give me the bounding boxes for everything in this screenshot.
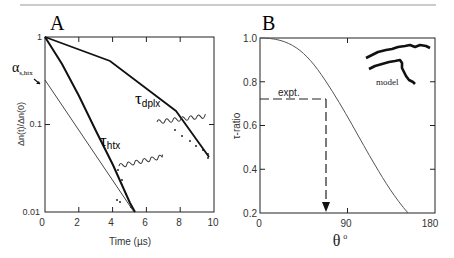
dplx-decay-line (45, 37, 209, 157)
svg-text:0.6: 0.6 (243, 120, 257, 131)
tau-htx-label: τhtx (100, 131, 120, 151)
figure: A 0 2 4 6 8 10 1 0.1 0.01 Time (µs) Δn(t… (0, 0, 454, 258)
triplex-helix-icon (119, 155, 164, 168)
svg-text:10: 10 (207, 217, 219, 228)
panel-b-frame (260, 38, 435, 213)
svg-text:0: 0 (256, 218, 262, 229)
model-strand-upper-icon (366, 45, 430, 58)
svg-text:180: 180 (422, 218, 439, 229)
panel-b-y-axis-title: τ-ratio (231, 112, 242, 139)
alpha-label: αs,htx (12, 60, 33, 77)
panel-a-frame (45, 37, 214, 212)
panel-b: B 0 90 180 1.0 0.8 0.6 0.4 0.2 θo τ-rati… (231, 12, 439, 249)
panel-a-label: A (50, 12, 65, 34)
panel-a-x-ticks (45, 37, 214, 212)
svg-text:0.1: 0.1 (29, 119, 42, 129)
svg-text:4: 4 (108, 217, 114, 228)
svg-text:1: 1 (37, 32, 42, 42)
svg-text:0.4: 0.4 (243, 164, 257, 175)
duplex-helix-icon (157, 114, 206, 124)
panel-a-y-axis-title: Δn(t)/Δn(0) (16, 102, 26, 146)
model-label: model (376, 77, 399, 87)
svg-text:8: 8 (176, 217, 182, 228)
svg-text:0.01: 0.01 (22, 207, 40, 217)
panel-b-x-tick-labels: 0 90 180 (256, 218, 439, 229)
expt-arrowhead-icon (322, 202, 330, 212)
svg-text:1.0: 1.0 (243, 33, 257, 44)
panel-a-x-axis-title: Time (µs) (109, 236, 151, 247)
tau-dplx-label: τdplx (135, 89, 160, 109)
panel-b-label: B (262, 12, 275, 34)
htx-decay-line (45, 37, 135, 212)
svg-text:6: 6 (142, 217, 148, 228)
svg-text:0.2: 0.2 (243, 208, 257, 219)
panel-b-ticks (260, 38, 435, 213)
expt-label: expt. (278, 87, 300, 98)
svg-text:2: 2 (74, 217, 80, 228)
svg-text:0.8: 0.8 (243, 77, 257, 88)
panel-a: A 0 2 4 6 8 10 1 0.1 0.01 Time (µs) Δn(t… (12, 12, 219, 247)
svg-text:0: 0 (39, 217, 45, 228)
panel-b-y-tick-labels: 1.0 0.8 0.6 0.4 0.2 (243, 33, 257, 219)
panel-a-x-tick-labels: 0 2 4 6 8 10 (39, 217, 219, 228)
svg-text:90: 90 (340, 218, 352, 229)
panel-b-x-axis-title: θo (333, 232, 348, 249)
htx-slow-fit-line (45, 80, 134, 212)
